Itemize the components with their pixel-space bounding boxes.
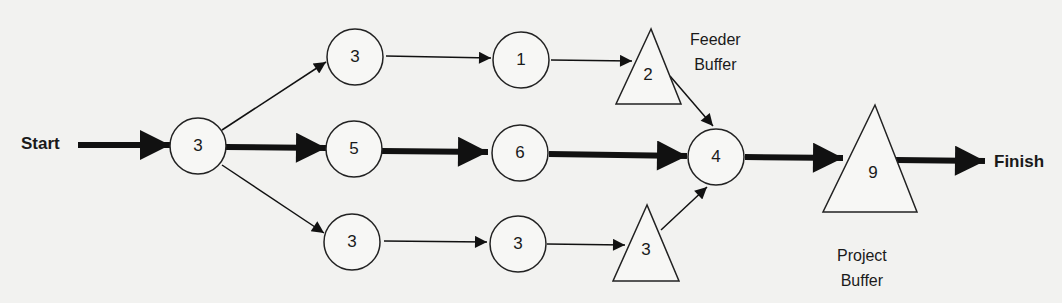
- edge-task4-to-project-buffer: [745, 157, 843, 158]
- task-6-duration: 6: [505, 143, 535, 163]
- task-2-duration: 3: [340, 47, 370, 67]
- project-buffer-caption-line-2: Buffer: [837, 268, 887, 293]
- feeder-buffer-2-size: 3: [631, 240, 661, 260]
- edge-task6-to-task4: [549, 154, 687, 156]
- critical-chain-diagram: Start Finish 3 3 5 3 1 6 3 4 2 3 9 Feede…: [0, 0, 1062, 303]
- task-7-duration: 3: [503, 234, 533, 254]
- edge-task3b-to-task3c: [384, 241, 487, 242]
- feeder-buffer-caption: Feeder Buffer: [690, 27, 741, 77]
- feeder-buffer-caption-line-2: Buffer: [690, 52, 741, 77]
- edge-feeder-buffer-3-to-task4: [661, 187, 707, 230]
- start-label: Start: [21, 134, 60, 154]
- edge-task5-to-task6: [382, 151, 488, 152]
- edge-project-buffer-to-finish: [896, 160, 985, 161]
- project-buffer-caption-line-1: Project: [837, 243, 887, 268]
- edge-task1-to-task5: [226, 147, 326, 148]
- project-buffer-caption: Project Buffer: [837, 243, 887, 293]
- edge-task3c-to-feeder-buffer-3: [547, 244, 625, 245]
- task-4-duration: 3: [337, 232, 367, 252]
- project-buffer-size: 9: [858, 163, 888, 183]
- task-5-duration: 1: [506, 50, 536, 70]
- edge-task1-to-task3b: [222, 165, 324, 233]
- task-8-duration: 4: [701, 147, 731, 167]
- task-3-duration: 5: [339, 139, 369, 159]
- edge-task-1-to-feeder-buffer-2: [551, 60, 632, 61]
- feeder-buffer-caption-line-1: Feeder: [690, 27, 741, 52]
- feeder-buffer-1-size: 2: [633, 65, 663, 85]
- task-1-duration: 3: [183, 136, 213, 156]
- edge-task2-to-task-1: [386, 56, 491, 58]
- finish-label: Finish: [994, 152, 1044, 172]
- edge-task1-to-task2: [222, 62, 326, 130]
